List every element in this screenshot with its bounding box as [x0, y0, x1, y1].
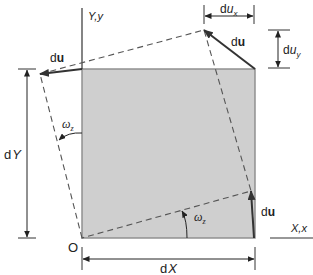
du-vector-top-left — [40, 69, 82, 74]
du-label-top-right: du — [231, 35, 245, 49]
origin-label: O — [68, 240, 78, 255]
omega-arc-left — [59, 133, 82, 140]
dux-label: dux — [220, 2, 238, 18]
dx-label: dX — [160, 261, 178, 275]
x-axis-label: X,x — [290, 222, 307, 234]
du-label-top-left: du — [50, 51, 64, 65]
undeformed-element — [82, 69, 255, 238]
du-vector-top-right — [204, 30, 255, 69]
du-label-bottom-right: du — [261, 205, 275, 219]
rotation-diagram: Y,y X,x du du du dux duy dY dX O ωz ωz — [0, 0, 313, 275]
duy-label: duy — [283, 43, 301, 59]
dy-label: dY — [4, 147, 22, 162]
y-axis-label: Y,y — [88, 10, 104, 22]
omega-label-left: ωz — [62, 117, 74, 133]
